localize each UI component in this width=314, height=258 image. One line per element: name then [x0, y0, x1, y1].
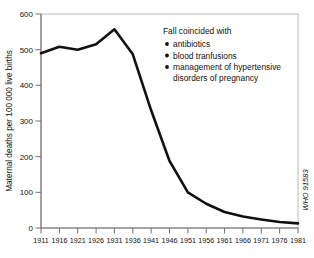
- maternal-mortality-line-chart: 0 100 200 300 400 500 600 Maternal death…: [0, 0, 314, 258]
- annotation-block: Fall coincided with antibiotics blood tr…: [163, 26, 281, 83]
- bullet-dot-icon: [165, 65, 169, 69]
- bullet-dot-icon: [165, 54, 169, 58]
- x-tick-label-1911: 1911: [33, 236, 48, 245]
- x-tick-label-1936: 1936: [125, 236, 141, 245]
- who-credit: WHO 91583: [301, 169, 310, 211]
- annotation-bullet-3-continued: disorders of pregnancy: [173, 73, 259, 83]
- annotation-heading: Fall coincided with: [163, 26, 232, 36]
- x-tick-label-1916: 1916: [51, 236, 67, 245]
- x-tick-label-1951: 1951: [180, 236, 196, 245]
- y-tick-label-400: 400: [20, 81, 34, 90]
- plot-frame: [41, 14, 298, 228]
- annotation-bullet-3: management of hypertensive: [173, 62, 281, 72]
- x-tick-label-1956: 1956: [198, 236, 214, 245]
- y-tick-label-0: 0: [29, 224, 34, 233]
- y-tick-label-200: 200: [20, 153, 34, 162]
- bullet-dot-icon: [165, 42, 169, 46]
- annotation-bullet-2: blood tranfusions: [173, 51, 237, 61]
- y-axis-title: Maternal deaths per 100 000 live births: [5, 50, 14, 192]
- y-tick-label-300: 300: [20, 117, 34, 126]
- y-axis-ticks: [36, 14, 42, 228]
- x-tick-label-1976: 1976: [272, 236, 288, 245]
- x-axis-ticks: [41, 228, 298, 234]
- x-tick-label-1981: 1981: [290, 236, 306, 245]
- x-tick-label-1971: 1971: [253, 236, 269, 245]
- x-tick-label-1941: 1941: [143, 236, 159, 245]
- y-tick-label-500: 500: [20, 46, 34, 55]
- y-tick-label-600: 600: [20, 10, 34, 19]
- annotation-bullet-1: antibiotics: [173, 39, 210, 49]
- x-tick-label-1921: 1921: [70, 236, 86, 245]
- x-tick-label-1961: 1961: [217, 236, 233, 245]
- x-tick-label-1931: 1931: [106, 236, 122, 245]
- x-tick-label-1966: 1966: [235, 236, 251, 245]
- y-tick-label-100: 100: [20, 188, 34, 197]
- chart-container: 0 100 200 300 400 500 600 Maternal death…: [0, 0, 314, 258]
- x-tick-label-1946: 1946: [162, 236, 178, 245]
- x-tick-label-1926: 1926: [88, 236, 104, 245]
- data-series-line: [41, 29, 298, 223]
